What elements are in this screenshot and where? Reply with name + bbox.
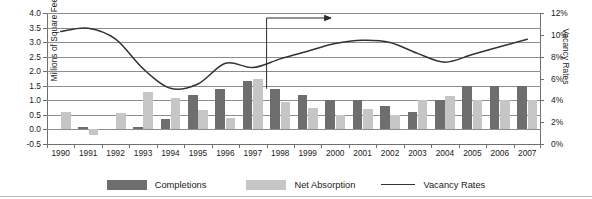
footer-divider <box>0 196 592 197</box>
arrow-annotation <box>47 4 541 144</box>
x-axis-ticklabel: 2006 <box>486 148 513 158</box>
x-axis-ticklabel: 1992 <box>102 148 129 158</box>
x-axis-ticklabel: 1995 <box>184 148 211 158</box>
x-axis-ticklabel: 2005 <box>459 148 486 158</box>
x-axis-tick <box>540 144 541 148</box>
x-axis-ticklabel: 2001 <box>349 148 376 158</box>
x-axis-ticklabel: 2004 <box>431 148 458 158</box>
left-axis-ticklabel: 1.0 <box>17 95 41 105</box>
annotation-leader-line <box>267 18 330 89</box>
left-axis-ticklabel: 2.0 <box>17 66 41 76</box>
left-axis-ticklabel: 2.5 <box>17 52 41 62</box>
right-axis-ticklabel: 12% <box>551 8 577 18</box>
legend-item-net-absorption: Net Absorption <box>246 180 355 190</box>
chart-legend: Completions Net Absorption Vacancy Rates <box>0 174 592 196</box>
x-axis-ticklabel: 1997 <box>239 148 266 158</box>
x-axis-ticklabel: 2003 <box>404 148 431 158</box>
left-axis-ticklabel: 3.5 <box>17 23 41 33</box>
x-axis-ticklabel: 1994 <box>157 148 184 158</box>
legend-label-completions: Completions <box>155 180 207 190</box>
legend-label-net-absorption: Net Absorption <box>294 180 355 190</box>
legend-label-vacancy-rates: Vacancy Rates <box>423 180 485 190</box>
left-axis-ticklabel: 4.0 <box>17 8 41 18</box>
left-axis-ticklabel: 0.5 <box>17 110 41 120</box>
x-axis-ticklabel: 2000 <box>321 148 348 158</box>
legend-item-completions: Completions <box>107 180 207 190</box>
completions-swatch-icon <box>107 180 147 190</box>
annotation-arrowhead-icon <box>325 15 332 20</box>
x-axis-ticklabel: 1990 <box>47 148 74 158</box>
right-axis-ticklabel: 4% <box>551 95 577 105</box>
right-axis-ticklabel: 10% <box>551 30 577 40</box>
x-axis-ticklabel: 2007 <box>514 148 541 158</box>
x-axis-ticklabel: 1999 <box>294 148 321 158</box>
vacancy-line-swatch-icon <box>381 184 415 185</box>
right-axis-ticklabel: 6% <box>551 74 577 84</box>
x-axis-ticklabel: 1993 <box>129 148 156 158</box>
left-axis-ticklabel: 0.0 <box>17 124 41 134</box>
x-axis-ticklabel: 2002 <box>376 148 403 158</box>
right-axis-ticklabel: 0% <box>551 139 577 149</box>
left-axis-ticklabel: 3.0 <box>17 37 41 47</box>
right-axis-ticklabel: 2% <box>551 117 577 127</box>
left-axis-ticklabel: 1.5 <box>17 81 41 91</box>
right-axis-ticklabel: 8% <box>551 52 577 62</box>
chart-figure: Millions of Square Feet Vacancy Rates 19… <box>0 0 592 199</box>
left-axis-ticklabel: -0.5 <box>17 139 41 149</box>
x-axis-ticklabel: 1996 <box>212 148 239 158</box>
x-axis-ticklabel: 1998 <box>267 148 294 158</box>
legend-item-vacancy-rates: Vacancy Rates <box>381 180 485 190</box>
net-absorption-swatch-icon <box>246 180 286 190</box>
x-axis-ticklabel: 1991 <box>74 148 101 158</box>
